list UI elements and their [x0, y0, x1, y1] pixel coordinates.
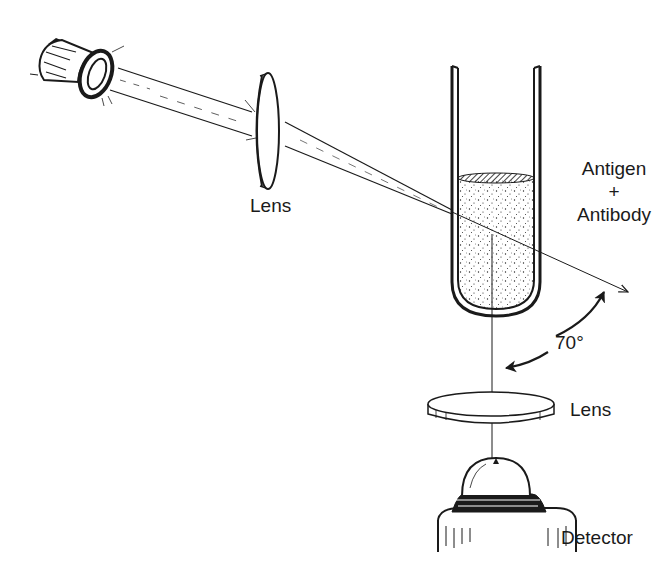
lens-2-icon — [428, 392, 554, 423]
angle-arc-lower — [506, 352, 548, 368]
lens-1-icon — [245, 73, 279, 189]
antibody-label: Antibody — [556, 205, 672, 224]
light-source-icon — [30, 38, 124, 106]
sample-tube-icon — [452, 66, 540, 316]
sample-label: Antigen + Antibody — [556, 159, 672, 224]
lens-2-label: Lens — [570, 400, 611, 419]
detector-label: Detector — [561, 528, 633, 547]
incident-beam — [110, 68, 452, 214]
lens-1-label: Lens — [250, 196, 291, 215]
angle-label: 70° — [555, 333, 584, 352]
angle-arc-upper — [556, 292, 604, 336]
nephelometer-diagram — [0, 0, 672, 581]
detector-icon — [438, 458, 576, 552]
plus-label: + — [556, 182, 672, 201]
antigen-label: Antigen — [556, 159, 672, 178]
